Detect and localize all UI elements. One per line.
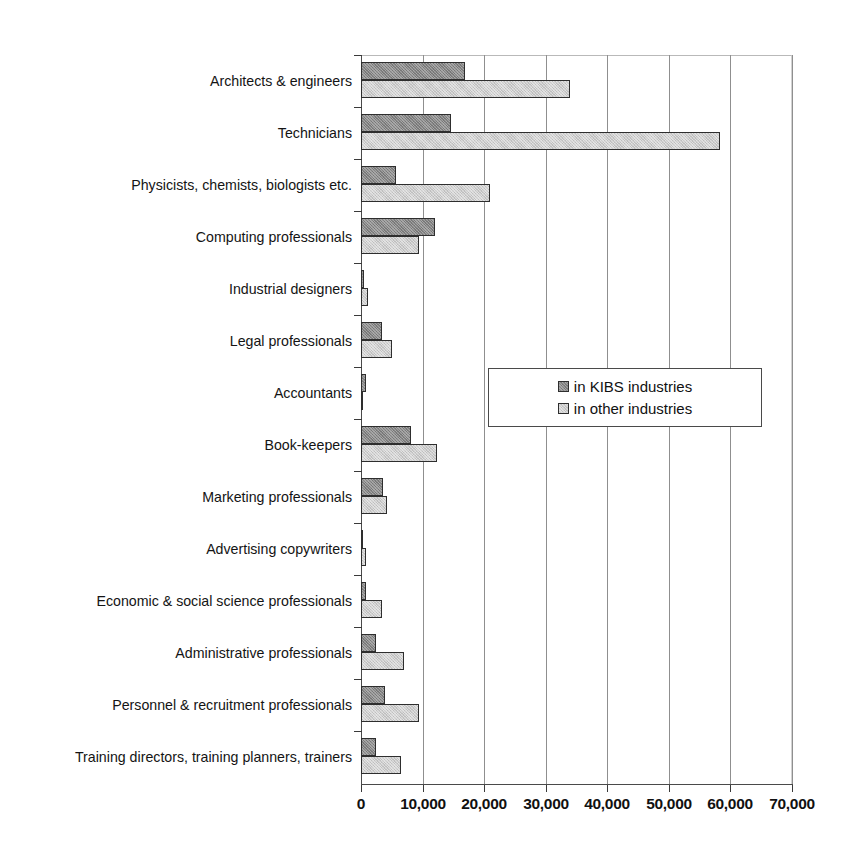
y-tick-10 (354, 575, 362, 576)
bar-kibs (361, 478, 383, 496)
legend-label-kibs: in KIBS industries (574, 378, 692, 395)
bar-kibs (361, 374, 366, 392)
bar-kibs (361, 218, 435, 236)
bar-other (361, 184, 490, 202)
bar-kibs (361, 62, 465, 80)
bar-other (361, 444, 437, 462)
y-tick-0 (354, 55, 362, 56)
legend: in KIBS industries in other industries (488, 368, 762, 427)
bar-kibs (361, 166, 396, 184)
y-tick-9 (354, 523, 362, 524)
category-label: Advertising copywriters (0, 541, 352, 557)
bar-kibs (361, 582, 366, 600)
x-tick-10000 (423, 785, 424, 792)
y-tick-13 (354, 731, 362, 732)
bar-other (361, 704, 419, 722)
y-tick-12 (354, 679, 362, 680)
x-tick-20000 (484, 785, 485, 792)
category-label: Economic & social science professionals (0, 593, 352, 609)
y-tick-1 (354, 107, 362, 108)
gridline-10000 (423, 55, 424, 784)
y-tick-5 (354, 315, 362, 316)
y-tick-3 (354, 211, 362, 212)
x-axis-line (361, 784, 793, 785)
x-tick-70000 (792, 785, 793, 792)
bar-chart-figure: 010,00020,00030,00040,00050,00060,00070,… (0, 0, 859, 861)
gridline-70000 (792, 55, 793, 784)
bar-other (361, 236, 419, 254)
category-label: Marketing professionals (0, 489, 352, 505)
category-label: Computing professionals (0, 229, 352, 245)
bar-other (361, 340, 392, 358)
y-tick-7 (354, 419, 362, 420)
category-label: Administrative professionals (0, 645, 352, 661)
bar-other (361, 288, 368, 306)
bar-kibs (361, 738, 376, 756)
bar-other (361, 756, 401, 774)
category-label: Physicists, chemists, biologists etc. (0, 177, 352, 193)
bar-other (361, 600, 382, 618)
bar-other (361, 496, 387, 514)
category-label: Book-keepers (0, 437, 352, 453)
category-label: Legal professionals (0, 333, 352, 349)
category-label: Accountants (0, 385, 352, 401)
bar-kibs (361, 322, 382, 340)
bar-other (361, 652, 404, 670)
bar-other (361, 80, 570, 98)
x-tick-0 (361, 785, 362, 792)
category-label: Training directors, training planners, t… (0, 749, 352, 765)
bar-kibs (361, 634, 376, 652)
legend-item-kibs: in KIBS industries (558, 378, 692, 395)
y-tick-6 (354, 367, 362, 368)
y-tick-11 (354, 627, 362, 628)
legend-swatch-kibs (558, 381, 569, 392)
y-axis-line (361, 55, 362, 785)
x-tick-40000 (607, 785, 608, 792)
gridline-20000 (484, 55, 485, 784)
bar-other (361, 548, 366, 566)
category-label: Industrial designers (0, 281, 352, 297)
category-label: Personnel & recruitment professionals (0, 697, 352, 713)
bar-kibs (361, 426, 411, 444)
bar-kibs (361, 114, 451, 132)
y-tick-8 (354, 471, 362, 472)
y-tick-4 (354, 263, 362, 264)
bar-kibs (361, 270, 364, 288)
x-tick-60000 (730, 785, 731, 792)
y-tick-2 (354, 159, 362, 160)
bar-other (361, 132, 720, 150)
legend-item-other: in other industries (558, 400, 692, 417)
legend-swatch-other (558, 403, 569, 414)
legend-label-other: in other industries (574, 400, 692, 417)
category-label: Technicians (0, 125, 352, 141)
x-tick-30000 (546, 785, 547, 792)
bar-other (361, 392, 363, 410)
bar-kibs (361, 530, 363, 548)
x-tick-50000 (669, 785, 670, 792)
category-label: Architects & engineers (0, 73, 352, 89)
bar-kibs (361, 686, 385, 704)
x-tick-label-70000: 70,000 (742, 795, 842, 813)
